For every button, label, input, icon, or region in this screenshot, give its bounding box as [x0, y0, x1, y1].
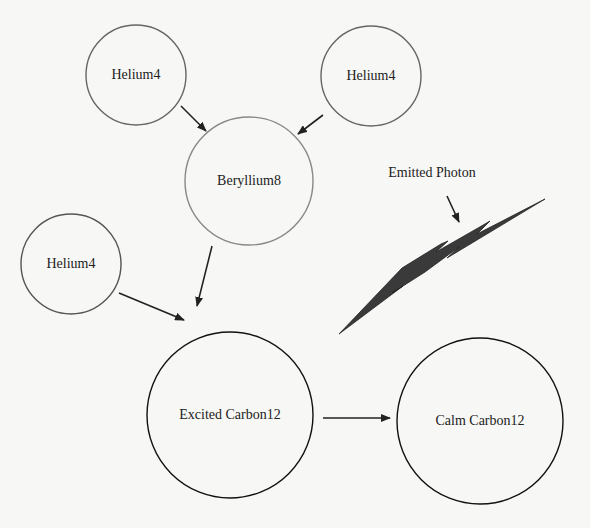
node-label-excited-carbon12: Excited Carbon12 — [179, 407, 280, 423]
node-label-calm-carbon12: Calm Carbon12 — [435, 413, 524, 429]
node-label-helium4-c: Helium4 — [47, 256, 96, 272]
nodes-layer — [21, 25, 563, 504]
node-label-beryllium8: Beryllium8 — [217, 173, 281, 189]
arrow-helium4-a-to-beryllium8 — [181, 106, 206, 131]
node-label-helium4-b: Helium4 — [347, 68, 396, 84]
arrow-emitted-photon — [447, 196, 459, 222]
photon-lightning-icon — [339, 199, 545, 334]
annotation-emitted-photon: Emitted Photon — [388, 165, 476, 181]
node-label-helium4-a: Helium4 — [112, 67, 161, 83]
arrow-helium4-b-to-beryllium8 — [298, 115, 323, 134]
diagram-canvas: Helium4 Helium4 Beryllium8 Helium4 Excit… — [0, 0, 590, 528]
photon-layer — [339, 199, 545, 334]
arrow-beryllium8-to-excited-carbon12 — [197, 246, 212, 306]
arrow-helium4-c-to-excited-carbon12 — [119, 293, 184, 320]
edges-layer — [119, 106, 459, 418]
